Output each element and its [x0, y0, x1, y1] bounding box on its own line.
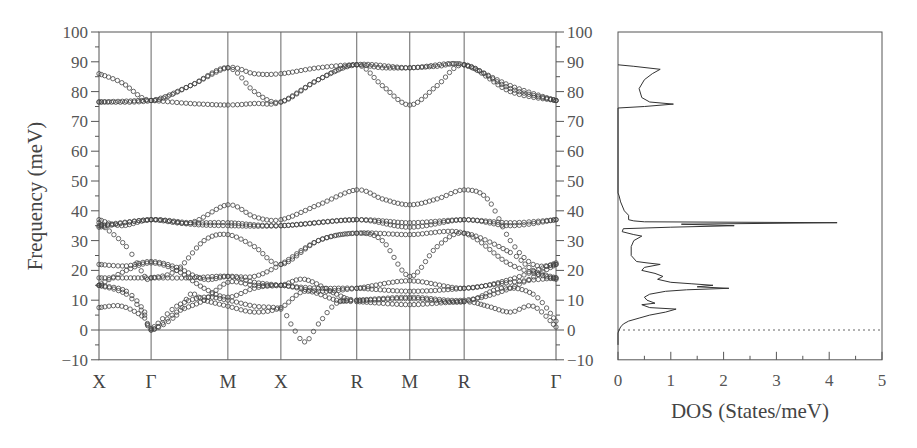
y-tick-label-right: 90	[567, 53, 584, 72]
symmetry-label: X	[274, 371, 288, 392]
y-tick-label-left: −10	[61, 351, 88, 370]
y-tick-label-left: 30	[71, 232, 88, 251]
dos-curve	[618, 65, 837, 345]
y-tick-label-right: 100	[567, 23, 593, 42]
y-tick-label-left: 50	[71, 172, 88, 191]
symmetry-label: X	[92, 371, 106, 392]
y-tick-label-right: 70	[567, 112, 584, 131]
y-tick-label-left: 0	[80, 321, 89, 340]
x-tick-label-dos: 5	[878, 371, 887, 390]
y-tick-label-left: 20	[71, 261, 88, 280]
y-tick-label-right: 20	[567, 261, 584, 280]
y-axis-title: Frequency (meV)	[23, 122, 47, 271]
x-tick-label-dos: 2	[719, 371, 728, 390]
x-tick-label-dos: 1	[667, 371, 676, 390]
symmetry-label: R	[458, 371, 471, 392]
x-tick-label-dos: 0	[614, 371, 623, 390]
y-tick-label-right: 80	[567, 83, 584, 102]
y-tick-label-right: 40	[567, 202, 584, 221]
x-tick-label-dos: 3	[772, 371, 781, 390]
y-tick-label-left: 10	[71, 291, 88, 310]
symmetry-label: M	[401, 371, 418, 392]
y-tick-label-right: 50	[567, 172, 584, 191]
phonon-branch	[97, 229, 558, 282]
y-tick-label-left: 80	[71, 83, 88, 102]
y-tick-label-right: 10	[567, 291, 584, 310]
y-tick-label-right: 60	[567, 142, 584, 161]
symmetry-label: Γ	[551, 371, 562, 392]
dispersion-panel: XΓMXRMRΓ−10−1000101020203030404050506060…	[61, 23, 593, 392]
dos-frame	[618, 32, 882, 360]
y-tick-label-right: −10	[567, 351, 594, 370]
symmetry-label: Γ	[146, 371, 157, 392]
y-tick-label-left: 60	[71, 142, 88, 161]
y-tick-label-left: 40	[71, 202, 88, 221]
y-tick-label-left: 100	[63, 23, 89, 42]
phonon-branch	[97, 221, 558, 282]
dos-panel: 012345	[614, 32, 887, 390]
phonon-branch	[97, 188, 558, 269]
y-tick-label-left: 70	[71, 112, 88, 131]
y-tick-label-left: 90	[71, 53, 88, 72]
x-tick-label-dos: 4	[825, 371, 834, 390]
x-axis-title-dos: DOS (States/meV)	[671, 399, 829, 423]
symmetry-label: M	[219, 371, 236, 392]
symmetry-label: R	[350, 371, 363, 392]
phonon-branch	[97, 61, 558, 102]
y-tick-label-right: 0	[567, 321, 576, 340]
y-tick-label-right: 30	[567, 232, 584, 251]
phonon-figure: XΓMXRMRΓ−10−1000101020203030404050506060…	[0, 0, 917, 448]
